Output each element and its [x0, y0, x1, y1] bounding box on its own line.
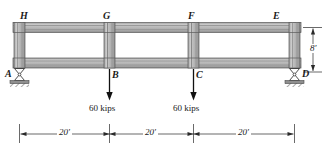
bottom-beam-member [13, 58, 301, 68]
height-dimension-label: 8' [308, 44, 318, 53]
column-member-fc [188, 23, 199, 69]
span-dimension-label-1: 20' [57, 128, 72, 137]
support-a [10, 69, 29, 88]
column-member-ed [289, 23, 300, 69]
joint-label-E: E [273, 11, 280, 21]
column-member-gb [104, 23, 115, 69]
joint-label-A: A [5, 69, 12, 79]
joint-label-B: B [112, 70, 119, 80]
frame-drawing [0, 0, 327, 149]
structural-frame-figure: H G F E A B C D 60 kips 60 kips 8' 20' 2… [0, 0, 327, 149]
span-dimension-label-3: 20' [236, 128, 251, 137]
load-label-b: 60 kips [89, 104, 115, 113]
top-beam-member [13, 23, 301, 33]
joint-label-F: F [188, 11, 195, 21]
joint-label-H: H [20, 11, 28, 21]
column-member-ha [14, 23, 25, 69]
load-label-c: 60 kips [173, 104, 199, 113]
span-dimension-label-2: 20' [143, 128, 158, 137]
joint-label-C: C [196, 70, 203, 80]
joint-label-G: G [103, 11, 110, 21]
joint-label-D: D [302, 69, 309, 79]
